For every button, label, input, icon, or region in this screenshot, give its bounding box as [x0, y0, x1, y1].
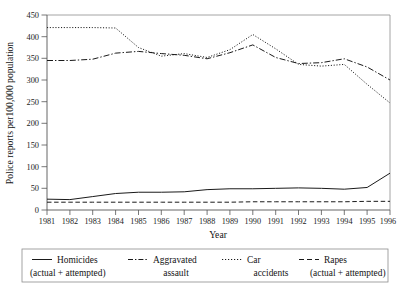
- x-tick-1995: 1995: [359, 217, 375, 226]
- legend-label-aggravated-line1: Aggravated: [153, 255, 197, 265]
- x-tick-1983: 1983: [85, 217, 101, 226]
- y-tick-200: 200: [26, 119, 39, 128]
- x-axis-title: Year: [209, 229, 227, 240]
- legend-label-rapes-line2: (actual + attempted): [310, 268, 386, 279]
- x-tick-1982: 1982: [62, 217, 78, 226]
- legend-label-car-line1: Car: [247, 255, 261, 265]
- line-chart: 450 400 350 300 250 200 150 100 50 0: [0, 0, 410, 288]
- y-tick-0: 0: [35, 206, 39, 215]
- y-tick-50: 50: [31, 184, 39, 193]
- x-tick-1990: 1990: [245, 217, 261, 226]
- legend-label-car-line2: accidents: [254, 268, 289, 278]
- y-tick-100: 100: [26, 163, 39, 172]
- legend-label-aggravated-line2: assault: [163, 268, 189, 278]
- x-tick-1989: 1989: [222, 217, 238, 226]
- legend-label-homicides-line1: Homicides: [57, 255, 98, 265]
- y-tick-300: 300: [26, 76, 39, 85]
- x-tick-1988: 1988: [199, 217, 215, 226]
- y-tick-150: 150: [26, 141, 39, 150]
- legend-label-rapes-line1: Rapes: [324, 255, 347, 265]
- y-tick-350: 350: [26, 54, 39, 63]
- x-tick-1992: 1992: [290, 217, 306, 226]
- x-tick-1996: 1996: [380, 217, 396, 226]
- y-axis-title: Police reports per100,000 population: [4, 42, 15, 184]
- x-tick-1981: 1981: [39, 217, 55, 226]
- x-tick-1994: 1994: [336, 217, 352, 226]
- x-tick-1993: 1993: [313, 217, 329, 226]
- x-tick-1986: 1986: [153, 217, 169, 226]
- chart-background: [0, 0, 410, 288]
- figure-container: 450 400 350 300 250 200 150 100 50 0: [0, 0, 410, 288]
- x-tick-1984: 1984: [107, 217, 123, 226]
- x-tick-1991: 1991: [268, 217, 284, 226]
- x-tick-1987: 1987: [176, 217, 192, 226]
- y-tick-250: 250: [26, 98, 39, 107]
- y-tick-450: 450: [26, 11, 39, 20]
- y-tick-400: 400: [26, 33, 39, 42]
- legend-label-homicides-line2: (actual + attempted): [30, 268, 106, 279]
- x-tick-1985: 1985: [130, 217, 146, 226]
